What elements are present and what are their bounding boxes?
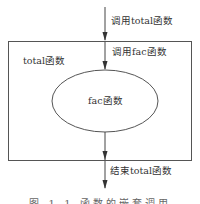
- total-function-label: total函数: [23, 56, 65, 66]
- end-total-arrowhead-icon: [103, 180, 108, 189]
- return-fac-arrowhead-icon: [103, 151, 108, 160]
- call-fac-arrowhead-icon: [103, 61, 108, 70]
- fac-function-label: fac函数: [88, 96, 123, 106]
- call-fac-label: 调用fac函数: [112, 47, 167, 57]
- call-total-arrowhead-icon: [103, 32, 108, 41]
- figure-caption: 图 1-1 函数的嵌套调用: [0, 199, 200, 204]
- end-total-label: 结束total函数: [110, 166, 172, 176]
- call-total-label: 调用total函数: [111, 16, 173, 26]
